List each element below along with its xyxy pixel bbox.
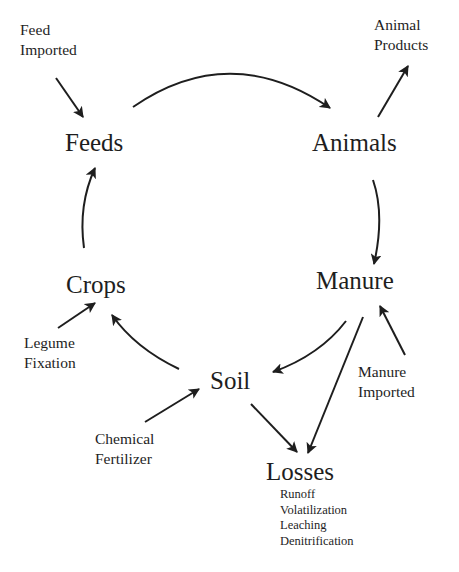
- label-legume-fixation-line1: Legume: [24, 333, 76, 353]
- label-animal-products-line2: Products: [374, 35, 428, 55]
- label-feed-imported-line1: Feed: [20, 20, 77, 40]
- arrow-animals-to-animal-products: [378, 66, 408, 117]
- node-feeds: Feeds: [65, 130, 123, 155]
- node-crops: Crops: [66, 272, 126, 297]
- nutrient-cycle-diagram: Feeds Animals Manure Crops Soil Losses F…: [0, 0, 459, 572]
- arrow-legume-fixation-to-crops: [58, 303, 95, 328]
- label-chemical-fertilizer-line2: Fertilizer: [95, 449, 154, 469]
- arrow-feeds-to-animals: [133, 74, 330, 108]
- arrow-manure-to-losses: [308, 317, 363, 453]
- label-manure-imported-line2: Imported: [358, 382, 415, 402]
- arrow-soil-to-crops: [112, 315, 179, 369]
- losses-item-volatilization: Volatilization: [280, 503, 354, 519]
- label-legume-fixation: Legume Fixation: [24, 333, 76, 373]
- label-feed-imported: Feed Imported: [20, 20, 77, 60]
- label-animal-products: Animal Products: [374, 15, 428, 55]
- label-chemical-fertilizer-line1: Chemical: [95, 429, 154, 449]
- label-legume-fixation-line2: Fixation: [24, 353, 76, 373]
- node-manure: Manure: [316, 268, 394, 293]
- label-manure-imported-line1: Manure: [358, 362, 415, 382]
- losses-list: Runoff Volatilization Leaching Denitrifi…: [280, 487, 354, 549]
- label-animal-products-line1: Animal: [374, 15, 428, 35]
- losses-item-denitrification: Denitrification: [280, 534, 354, 550]
- losses-item-leaching: Leaching: [280, 518, 354, 534]
- node-animals: Animals: [312, 130, 397, 155]
- arrow-manure-to-soil: [273, 321, 346, 372]
- node-losses: Losses: [266, 459, 334, 484]
- losses-item-runoff: Runoff: [280, 487, 354, 503]
- arrow-animals-to-manure: [373, 180, 379, 264]
- arrow-crops-to-feeds: [82, 168, 95, 248]
- arrow-soil-to-losses: [251, 404, 297, 452]
- arrow-feed-imported-to-feeds: [56, 78, 83, 117]
- arrow-chemical-fertilizer-to-soil: [145, 389, 199, 422]
- arrow-manure-imported-to-manure: [380, 306, 405, 355]
- label-feed-imported-line2: Imported: [20, 40, 77, 60]
- label-chemical-fertilizer: Chemical Fertilizer: [95, 429, 154, 469]
- label-manure-imported: Manure Imported: [358, 362, 415, 402]
- node-soil: Soil: [210, 368, 250, 393]
